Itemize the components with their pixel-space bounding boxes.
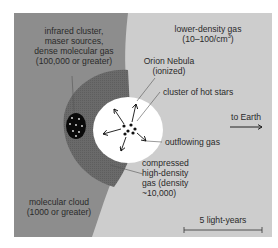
outflowing-gas-text: outflowing gas xyxy=(165,137,220,147)
molecular-cloud-label: molecular cloud (1000 or greater) xyxy=(18,197,100,217)
infrared-label-line4: (100,000 or greater) xyxy=(24,56,124,66)
lower-density-label-line1: lower-density gas xyxy=(160,24,256,34)
orion-label-line2: (ionized) xyxy=(139,66,199,76)
infrared-label-line3: dense molecular gas xyxy=(24,46,124,56)
scale-bar-label: 5 light-years xyxy=(184,215,262,225)
scale-bar-text: 5 light-years xyxy=(200,215,247,225)
infrared-label-line1: infrared cluster, xyxy=(24,26,124,36)
to-earth-text: to Earth xyxy=(231,112,261,122)
molecular-label-line2: (1000 or greater) xyxy=(18,207,100,217)
hot-stars-label: cluster of hot stars xyxy=(163,87,233,97)
outflowing-gas-label: outflowing gas xyxy=(165,137,220,147)
compressed-label-line4: ~10,000) xyxy=(142,188,189,198)
lower-density-label-line2: (10–100/cm3) xyxy=(160,34,256,44)
density-range-text: (10–100/cm xyxy=(182,34,227,44)
orion-label-line1: Orion Nebula xyxy=(139,56,199,66)
hot-stars-text: cluster of hot stars xyxy=(163,87,233,97)
compressed-label-line1: compressed xyxy=(142,158,189,168)
infrared-label-line2: maser sources, xyxy=(24,36,124,46)
to-earth-label: to Earth xyxy=(231,112,261,122)
density-close-paren: ) xyxy=(231,34,234,44)
compressed-label-line3: gas (density xyxy=(142,178,189,188)
infrared-cluster-label: infrared cluster, maser sources, dense m… xyxy=(24,26,124,66)
lower-density-gas-label: lower-density gas (10–100/cm3) xyxy=(160,24,256,44)
molecular-label-line1: molecular cloud xyxy=(18,197,100,207)
compressed-label-line2: high-density xyxy=(142,168,189,178)
orion-nebula-label: Orion Nebula (ionized) xyxy=(139,56,199,76)
compressed-gas-label: compressed high-density gas (density ~10… xyxy=(142,158,189,198)
